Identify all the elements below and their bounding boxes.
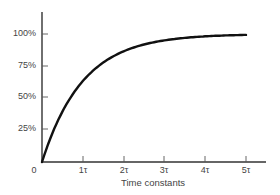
x-tick-label-1: 1τ bbox=[73, 165, 93, 175]
y-tick-label-75: 75% bbox=[2, 60, 36, 70]
y-ticks bbox=[42, 34, 48, 129]
y-tick-label-50: 50% bbox=[2, 91, 36, 101]
charge-curve bbox=[42, 35, 246, 162]
x-tick-label-5: 5τ bbox=[236, 165, 256, 175]
x-tick-label-2: 2τ bbox=[114, 165, 134, 175]
x-axis-title: Time constants bbox=[121, 177, 185, 188]
y-tick-label-100: 100% bbox=[2, 28, 36, 38]
y-tick-label-25: 25% bbox=[2, 123, 36, 133]
x-tick-label-3: 3τ bbox=[154, 165, 174, 175]
x-tick-label-0: 0 bbox=[24, 165, 44, 175]
x-ticks bbox=[83, 156, 246, 162]
x-tick-label-4: 4τ bbox=[195, 165, 215, 175]
